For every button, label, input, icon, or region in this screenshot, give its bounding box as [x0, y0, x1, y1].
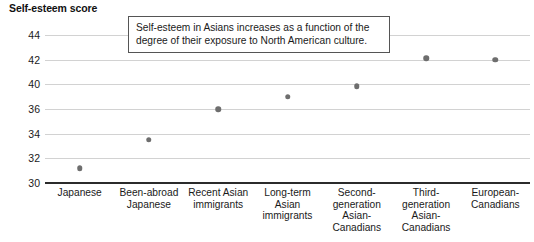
y-axis-tick-label: 44	[4, 30, 40, 41]
y-axis-tick-label: 42	[4, 55, 40, 66]
annotation-callout: Self-esteem in Asians increases as a fun…	[128, 16, 390, 53]
x-axis-category-labels: JapaneseBeen-abroad JapaneseRecent Asian…	[45, 187, 530, 242]
y-axis-tick-label: 32	[4, 153, 40, 164]
gridline	[45, 134, 530, 135]
gridline	[45, 84, 530, 85]
plot-area: 44424036343230	[45, 35, 530, 183]
y-axis-tick-label: 30	[4, 178, 40, 189]
gridline	[45, 109, 530, 110]
data-point	[146, 137, 152, 143]
x-axis-category-label: European- Canadians	[453, 187, 534, 210]
y-axis-tick-label: 34	[4, 129, 40, 140]
y-axis-tick-label: 40	[4, 79, 40, 90]
x-axis-baseline	[45, 182, 530, 184]
y-axis-tick-label: 36	[4, 104, 40, 115]
y-axis-title: Self-esteem score	[9, 2, 97, 15]
self-esteem-score-chart: Self-esteem score 44424036343230 Japanes…	[0, 0, 534, 242]
gridline	[45, 60, 530, 61]
data-point	[77, 165, 83, 171]
data-point	[354, 83, 360, 89]
data-point	[423, 56, 429, 62]
data-point	[285, 94, 291, 100]
gridline	[45, 158, 530, 159]
data-point	[215, 106, 221, 112]
data-point	[493, 57, 499, 63]
